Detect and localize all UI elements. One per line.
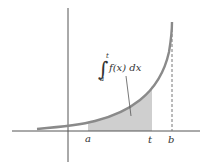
label-t: t bbox=[148, 134, 153, 145]
integrand-label: f(x) dx bbox=[108, 62, 142, 73]
integral-diagram: ∫ t a f(x) dx a t b bbox=[0, 0, 210, 168]
integral-upper-limit: t bbox=[106, 52, 109, 60]
label-a: a bbox=[85, 133, 91, 144]
label-b: b bbox=[168, 134, 174, 145]
shaded-area bbox=[88, 86, 152, 131]
integral-lower-limit: a bbox=[100, 75, 104, 83]
